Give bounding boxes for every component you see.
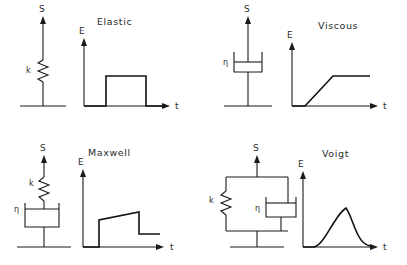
panel-title-voigt: Voigt xyxy=(322,148,349,159)
panel-voigt: k η S Voigt E t xyxy=(204,133,407,265)
stress-axis-label: S xyxy=(40,143,46,153)
panel-title-viscous: Viscous xyxy=(318,20,358,31)
time-axis-label: t xyxy=(383,242,387,252)
panel-elastic: k S Elastic E t xyxy=(0,0,203,132)
panel-title-elastic: Elastic xyxy=(97,16,132,27)
spring-constant-label: k xyxy=(209,196,214,205)
spring-constant-label: k xyxy=(26,66,31,75)
plot-voigt xyxy=(300,171,378,250)
stress-axis-label: S xyxy=(244,4,250,14)
panel-viscous: η S Viscous E t xyxy=(204,0,407,132)
model-maxwell xyxy=(17,155,71,247)
stress-axis-label: S xyxy=(39,4,45,14)
viscoelastic-models-figure: k S Elastic E t xyxy=(0,0,407,265)
viscosity-label: η xyxy=(255,204,260,213)
strain-axis-label: E xyxy=(287,30,293,40)
strain-axis-label: E xyxy=(79,26,85,36)
panel-maxwell: k η S Maxwell E t xyxy=(0,133,203,265)
strain-axis-label: E xyxy=(78,157,84,167)
stress-axis-label: S xyxy=(253,143,259,153)
viscosity-label: η xyxy=(223,58,228,67)
plot-viscous xyxy=(289,42,378,109)
plot-maxwell xyxy=(80,169,164,250)
model-viscous xyxy=(224,16,272,106)
time-axis-label: t xyxy=(383,101,387,111)
strain-axis-label: E xyxy=(298,159,304,169)
viscosity-label: η xyxy=(14,205,19,214)
model-elastic xyxy=(20,16,66,106)
plot-elastic xyxy=(81,38,170,109)
time-axis-label: t xyxy=(175,101,179,111)
panel-title-maxwell: Maxwell xyxy=(88,147,131,158)
model-voigt xyxy=(221,155,296,247)
spring-constant-label: k xyxy=(29,179,34,188)
time-axis-label: t xyxy=(170,242,174,252)
